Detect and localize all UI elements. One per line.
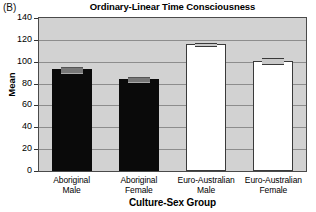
bar-aboriginal-female[interactable] (119, 79, 159, 171)
bar-slot (173, 18, 240, 171)
y-tick-label: 60 (22, 99, 32, 110)
x-tick-label-line: Female (105, 185, 172, 195)
y-axis-tick: 20 (0, 149, 38, 150)
x-tick-label-line: Male (173, 185, 240, 195)
figure-panel-b: (B) Ordinary-Linear Time Consciousness M… (0, 0, 316, 212)
plot-area (38, 17, 307, 172)
error-bar (61, 67, 83, 74)
bar-euro-australian-male[interactable] (186, 44, 226, 171)
y-tick-label: 100 (17, 56, 32, 67)
y-axis-tick: 120 (0, 40, 38, 41)
bar-slot (39, 18, 106, 171)
x-tick-label-line: Aboriginal (38, 175, 105, 185)
bar-aboriginal-male[interactable] (52, 69, 92, 171)
error-bar (195, 43, 217, 47)
y-axis-tick: 0 (0, 171, 38, 172)
x-tick-label-line: Aboriginal (105, 175, 172, 185)
panel-label: (B) (3, 2, 16, 13)
y-axis-tick: 80 (0, 84, 38, 85)
error-bar (262, 58, 284, 65)
x-tick-label: Euro-AustralianMale (173, 175, 240, 195)
y-axis: Mean 020406080100120140 (0, 17, 38, 173)
x-tick-label-line: Euro-Australian (240, 175, 307, 185)
bar-slot (106, 18, 173, 171)
y-axis-tick: 40 (0, 127, 38, 128)
y-tick-label: 140 (17, 12, 32, 23)
x-axis-title: Culture-Sex Group (38, 197, 307, 208)
y-tick-label: 40 (22, 121, 32, 132)
x-tick-label: Euro-AustralianFemale (240, 175, 307, 195)
bars-layer (39, 18, 306, 171)
chart-title: Ordinary-Linear Time Consciousness (38, 1, 307, 12)
x-tick-label: AboriginalMale (38, 175, 105, 195)
x-tick-label: AboriginalFemale (105, 175, 172, 195)
bar-slot (239, 18, 306, 171)
y-axis-tick: 140 (0, 18, 38, 19)
bar-euro-australian-female[interactable] (253, 61, 293, 171)
y-tick-label: 0 (27, 165, 32, 176)
error-bar (128, 77, 150, 84)
x-tick-label-line: Female (240, 185, 307, 195)
x-axis-tick-labels: AboriginalMaleAboriginalFemaleEuro-Austr… (38, 175, 307, 195)
y-tick-label: 80 (22, 78, 32, 89)
x-tick-label-line: Male (38, 185, 105, 195)
y-axis-tick: 60 (0, 105, 38, 106)
y-axis-tick: 100 (0, 62, 38, 63)
x-tick-label-line: Euro-Australian (173, 175, 240, 185)
y-tick-label: 120 (17, 34, 32, 45)
y-tick-label: 20 (22, 143, 32, 154)
